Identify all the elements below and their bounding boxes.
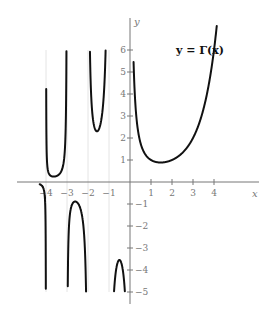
- x-tick-label: −1: [102, 188, 115, 198]
- x-tick-label: 4: [211, 188, 217, 198]
- axes: x y: [17, 16, 259, 304]
- chart-title: y = Γ(x): [175, 44, 224, 57]
- x-tick-label: −4: [39, 188, 53, 198]
- gamma-curve-branch: [114, 260, 125, 291]
- y-tick-label: 1: [120, 155, 126, 165]
- y-axis-label: y: [133, 16, 140, 27]
- y-tick-label: 5: [120, 67, 126, 77]
- gamma-chart: x y −4−3−2−11234−5−4−3−2−1123456 y = Γ(x…: [0, 0, 274, 315]
- x-tick-label: 2: [169, 188, 175, 198]
- curves: [40, 26, 217, 291]
- gamma-curve-branch: [40, 184, 46, 289]
- x-tick-label: 1: [148, 188, 154, 198]
- y-tick-label: 4: [120, 89, 126, 99]
- y-tick-label: −4: [135, 265, 149, 275]
- gamma-curve-branch: [68, 202, 86, 292]
- x-tick-label: −2: [81, 188, 94, 198]
- gamma-curve-branch: [46, 51, 66, 176]
- y-tick-label: −2: [135, 221, 148, 231]
- y-tick-label: −5: [135, 287, 149, 297]
- y-tick-label: −1: [135, 199, 148, 209]
- x-axis-label: x: [252, 188, 258, 199]
- asymptote-lines: [46, 50, 109, 292]
- y-tick-label: 2: [120, 133, 126, 143]
- y-tick-label: 6: [120, 45, 126, 55]
- x-tick-label: 3: [190, 188, 196, 198]
- gamma-curve-branch: [90, 51, 106, 132]
- chart-container: x y −4−3−2−11234−5−4−3−2−1123456 y = Γ(x…: [0, 0, 274, 315]
- y-tick-label: −3: [135, 243, 149, 253]
- y-tick-label: 3: [120, 111, 126, 121]
- x-tick-label: −3: [60, 188, 74, 198]
